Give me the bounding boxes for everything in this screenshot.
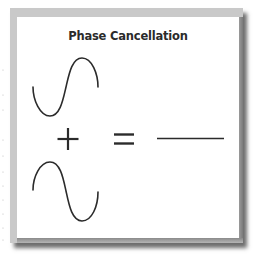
sine-wave-bottom-icon (33, 162, 98, 221)
plus-sign-icon (58, 128, 79, 150)
equals-sign-icon (114, 135, 134, 144)
sine-wave-top-icon (33, 58, 98, 116)
phase-cancellation-diagram (0, 0, 254, 256)
